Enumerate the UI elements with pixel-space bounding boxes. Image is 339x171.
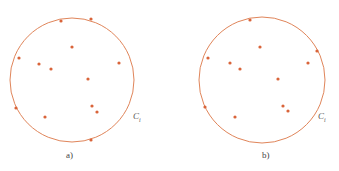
data-point (286, 109, 289, 112)
data-point (233, 115, 236, 118)
data-point (95, 110, 98, 113)
data-point (14, 106, 17, 109)
data-point (281, 104, 284, 107)
data-point (17, 56, 20, 59)
data-point (43, 115, 46, 118)
data-point (90, 104, 93, 107)
data-point (49, 67, 52, 70)
data-point (70, 45, 73, 48)
data-point (248, 18, 251, 21)
data-point (203, 105, 206, 108)
data-point (258, 45, 261, 48)
data-point (238, 67, 241, 70)
data-point (86, 77, 89, 80)
enclosing-circle-a (10, 18, 134, 142)
panel-b-label: b) (262, 150, 270, 160)
data-point (306, 61, 309, 64)
data-point (117, 61, 120, 64)
data-point (206, 56, 209, 59)
data-point (228, 61, 231, 64)
data-point (37, 62, 40, 65)
panel-a-circle-label: Ci (133, 111, 141, 123)
data-point (89, 138, 92, 141)
diagram-canvas (0, 0, 339, 171)
data-point (315, 49, 318, 52)
panel-a-label: a) (66, 150, 73, 160)
enclosing-circle-b (199, 17, 325, 143)
data-point (276, 77, 279, 80)
data-point (59, 19, 62, 22)
data-point (89, 17, 92, 20)
panel-b-circle-label: Ci (318, 111, 326, 123)
